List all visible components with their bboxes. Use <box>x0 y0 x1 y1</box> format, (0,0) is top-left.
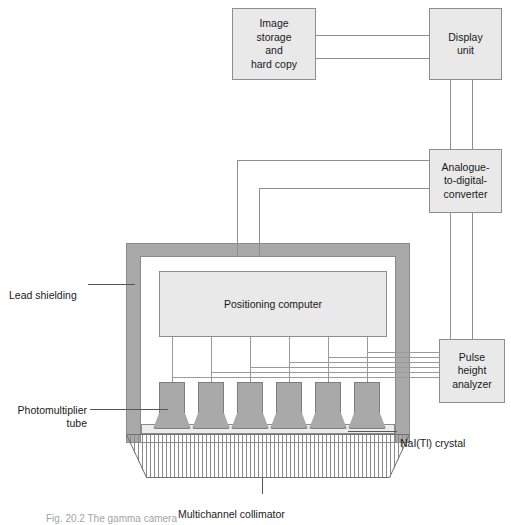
multichannel-collimator-annotation: Multichannel collimator <box>178 495 285 521</box>
pha-signal-line-1 <box>172 377 440 378</box>
lead-shielding-annotation: Lead shielding <box>9 276 77 302</box>
lead-shielding-leader-line <box>88 284 135 285</box>
nai-crystal-leader-line <box>348 431 397 432</box>
multichannel-collimator-label: Multichannel collimator <box>178 508 285 520</box>
pulse-height-analyzer-box: Pulse height analyzer <box>439 339 505 403</box>
wire-storage-display-upper <box>315 35 430 36</box>
pmt-feed-1 <box>172 337 173 382</box>
pmt-body <box>237 382 263 414</box>
multichannel-collimator-shape <box>126 434 410 480</box>
figure-caption-text: Fig. 20.2 The gamma camera <box>46 513 177 524</box>
nai-crystal-label: NaI(Tl) crystal <box>400 437 465 449</box>
pmt-feed-5 <box>328 337 329 382</box>
multichannel-collimator-leader-line <box>262 478 263 494</box>
pmt-base <box>192 413 230 429</box>
pha-signal-line-5 <box>328 357 440 358</box>
pha-signal-line-6 <box>367 352 440 353</box>
image-storage-box: Image storage and hard copy <box>232 8 316 80</box>
wire-poscomp-adc-inner-horizontal <box>259 188 430 189</box>
pha-signal-line-2 <box>211 372 440 373</box>
gamma-camera-diagram: Positioning computer <box>0 0 511 525</box>
wire-display-adc-left <box>450 80 451 150</box>
pmt-feed-4 <box>289 337 290 382</box>
wire-display-adc-right <box>472 80 473 150</box>
collimator-septa <box>131 434 407 480</box>
pmt-base <box>309 413 347 429</box>
pmt-base <box>348 413 386 429</box>
wire-poscomp-adc-outer-horizontal <box>237 160 430 161</box>
wire-adc-pha-left <box>450 212 451 340</box>
pha-signal-line-3 <box>250 367 440 368</box>
figure-caption: Fig. 20.2 The gamma camera <box>46 513 177 524</box>
positioning-computer-label: Positioning computer <box>224 298 322 310</box>
pmt-base <box>270 413 308 429</box>
photomultiplier-tube-leader-line <box>90 409 168 410</box>
pmt-feed-6 <box>367 337 368 382</box>
pmt-body <box>354 382 380 414</box>
display-unit-label: Display unit <box>448 31 482 58</box>
pmt-body <box>198 382 224 414</box>
pmt-body <box>315 382 341 414</box>
wire-adc-pha-right <box>472 212 473 340</box>
nai-crystal-annotation: NaI(Tl) crystal <box>400 424 465 450</box>
pmt-base <box>231 413 269 429</box>
adc-label: Analogue- to-digital- converter <box>442 161 490 202</box>
pmt-feed-3 <box>250 337 251 382</box>
positioning-computer-box: Positioning computer <box>159 271 387 337</box>
pmt-feed-2 <box>211 337 212 382</box>
pha-signal-line-4 <box>289 362 440 363</box>
image-storage-label: Image storage and hard copy <box>251 17 297 71</box>
wire-storage-display-lower <box>315 58 430 59</box>
pmt-base <box>153 413 191 429</box>
pmt-body <box>276 382 302 414</box>
photomultiplier-tube-annotation: Photomultiplier tube <box>9 391 87 430</box>
lead-shielding-label: Lead shielding <box>9 289 77 301</box>
analogue-to-digital-converter-box: Analogue- to-digital- converter <box>429 149 502 213</box>
pulse-height-analyzer-label: Pulse height analyzer <box>452 351 492 392</box>
photomultiplier-tube-label: Photomultiplier tube <box>18 404 87 429</box>
display-unit-box: Display unit <box>429 8 502 80</box>
